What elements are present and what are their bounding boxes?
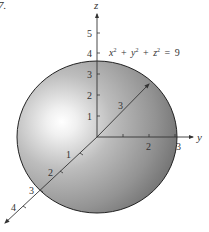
x-tick-2: 2 [48,167,53,178]
x-tick-3: 3 [29,185,34,196]
eq-plus-2: + [143,47,149,58]
z-axis-label: z [93,0,99,11]
sphere-diagram: 7. 1 2 3 4 5 z 2 3 y 1 2 3 4 3 x2 + y2 [0,0,209,232]
y-tick-3: 3 [176,141,181,152]
z-tick-5: 5 [87,28,92,39]
eq-equals: = [165,47,171,58]
figure-number: 7. [0,0,6,11]
z-tick-2: 2 [87,90,92,101]
y-tick-2: 2 [146,141,151,152]
x-tick-1: 1 [66,149,71,160]
eq-y-exp: 2 [136,47,139,53]
eq-plus-1: + [121,47,127,58]
x-tick-4: 4 [11,202,16,213]
x-back-tick-3: 3 [118,100,123,111]
z-tick-3: 3 [87,69,92,80]
eq-z-exp: 2 [157,47,160,53]
eq-rhs: 9 [175,47,180,58]
z-tick-4: 4 [87,48,92,59]
sphere-equation: x2 + y2 + z2 = 9 [108,43,180,58]
eq-x-exp: 2 [113,47,116,53]
z-tick-1: 1 [87,111,92,122]
y-axis-label: y [196,131,202,143]
